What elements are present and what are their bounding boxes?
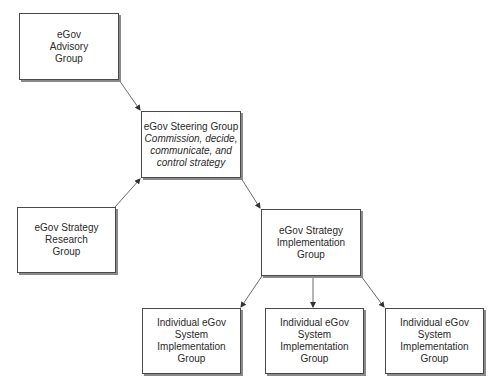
node-label: Group: [178, 353, 206, 365]
node-label: Group: [55, 53, 83, 65]
node-label: Implementation: [280, 341, 348, 353]
arrow-advisory-to-steering: [119, 80, 140, 110]
node-description: Commission, decide,: [145, 133, 238, 145]
node-advisory-group: eGov Advisory Group: [19, 13, 119, 80]
node-steering-group: eGov Steering Group Commission, decide, …: [141, 111, 241, 178]
node-system-implementation-group-2: Individual eGov System Implementation Gr…: [265, 308, 364, 374]
node-label: Group: [301, 353, 329, 365]
node-label: Group: [297, 249, 325, 261]
node-description: communicate, and: [150, 145, 232, 157]
arrow-implementation-to-system3: [361, 276, 384, 307]
node-label: eGov Strategy: [35, 222, 99, 234]
diagram-canvas: eGov Advisory Group eGov Steering Group …: [0, 0, 498, 392]
arrow-steering-to-implementation: [241, 178, 260, 208]
node-label: eGov: [57, 29, 81, 41]
node-label: System: [175, 329, 208, 341]
node-label: Implementation: [157, 341, 225, 353]
node-description: control strategy: [157, 157, 225, 169]
node-label: Advisory: [50, 41, 88, 53]
node-title: eGov Steering Group: [144, 121, 239, 133]
node-label: Group: [53, 246, 81, 258]
node-system-implementation-group-1: Individual eGov System Implementation Gr…: [142, 308, 241, 374]
node-label: Implementation: [277, 237, 345, 249]
node-system-implementation-group-3: Individual eGov System Implementation Gr…: [385, 308, 484, 374]
node-label: Individual eGov: [280, 317, 349, 329]
arrow-research-to-steering: [115, 179, 140, 207]
arrow-implementation-to-system1: [241, 276, 262, 307]
node-label: Implementation: [400, 341, 468, 353]
node-label: Group: [421, 353, 449, 365]
node-label: Individual eGov: [157, 317, 226, 329]
node-label: System: [418, 329, 451, 341]
node-strategy-research-group: eGov Strategy Research Group: [17, 207, 116, 273]
node-label: Research: [45, 234, 88, 246]
node-strategy-implementation-group: eGov Strategy Implementation Group: [261, 209, 361, 276]
node-label: eGov Strategy: [279, 225, 343, 237]
node-label: Individual eGov: [400, 317, 469, 329]
node-label: System: [298, 329, 331, 341]
